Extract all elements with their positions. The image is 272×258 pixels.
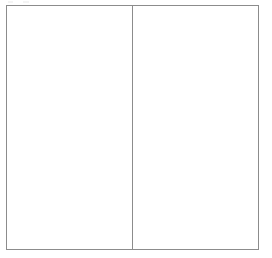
two-column-form-outline — [6, 5, 259, 250]
scanned-page — [0, 0, 272, 258]
form-panel-right-text — [133, 6, 258, 249]
scan-speck-icon — [23, 1, 29, 3]
form-panel-left-text — [7, 6, 132, 249]
scan-speck-icon — [8, 1, 13, 3]
form-panel-left[interactable] — [7, 6, 133, 249]
form-panel-right[interactable] — [133, 6, 258, 249]
